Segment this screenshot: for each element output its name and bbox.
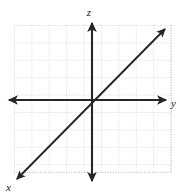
y-axis-label: y <box>170 97 176 109</box>
x-axis-label: x <box>5 181 11 193</box>
z-axis-label: z <box>86 6 92 18</box>
coordinate-axes-figure: z y x <box>0 0 180 193</box>
axes-svg: z y x <box>0 0 180 193</box>
